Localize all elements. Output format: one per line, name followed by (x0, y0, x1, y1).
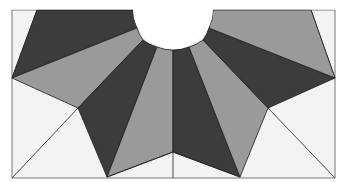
top-margin (0, 0, 346, 10)
quilt-diagram (0, 0, 346, 182)
